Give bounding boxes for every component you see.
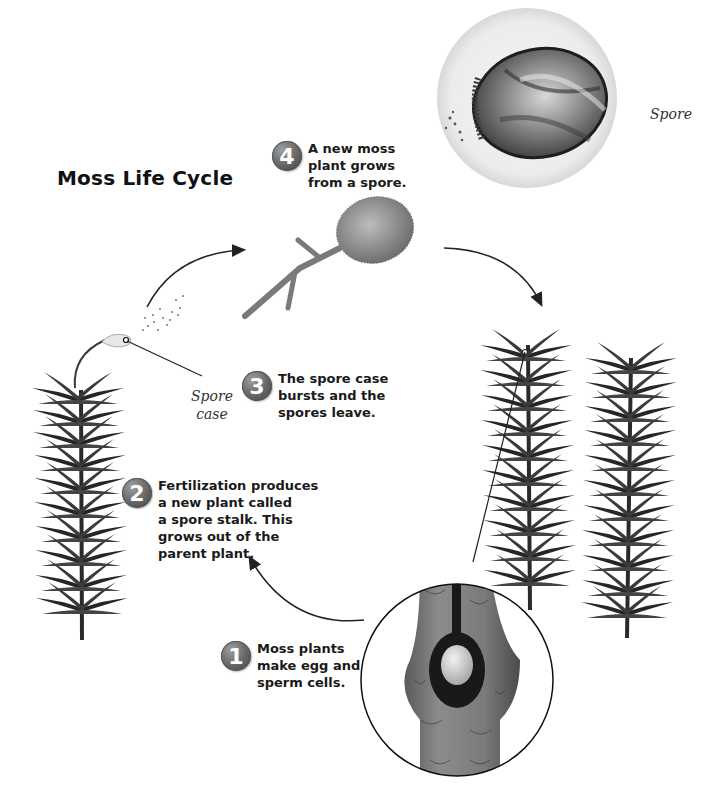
released-spores — [142, 295, 184, 331]
step-3: 3 The spore case bursts and the spores l… — [242, 370, 388, 421]
step-4-number-badge: 4 — [272, 141, 302, 171]
step-3-text: The spore case bursts and the spores lea… — [278, 370, 388, 421]
moss-plant-1 — [473, 329, 576, 610]
step-4: 4 A new moss plant grows from a spore. — [272, 140, 407, 191]
step-2: 2 Fertilization produces a new plant cal… — [122, 477, 318, 562]
step-1: 1 Moss plants make egg and sperm cells. — [221, 640, 360, 691]
moss-plant-2 — [581, 342, 677, 638]
step-1-text: Moss plants make egg and sperm cells. — [257, 640, 360, 691]
spore-illustration — [437, 8, 617, 188]
step-1-number-badge: 1 — [221, 641, 251, 671]
germinating-spore-illustration — [245, 188, 421, 316]
egg-cell-magnified-view — [361, 570, 553, 790]
arrow-1-to-2 — [250, 558, 364, 621]
arrow-3-to-4 — [147, 250, 243, 307]
cycle-arrows — [147, 248, 541, 621]
step-2-text: Fertilization produces a new plant calle… — [158, 477, 318, 562]
spore-case-label: Spore case — [191, 387, 233, 423]
spore-label: Spore — [650, 105, 692, 123]
step-4-text: A new moss plant grows from a spore. — [308, 140, 407, 191]
step-2-number-badge: 2 — [122, 478, 152, 508]
arrow-4-to-1 — [444, 248, 541, 304]
step-3-number-badge: 3 — [242, 371, 272, 401]
diagram-title: Moss Life Cycle — [57, 166, 233, 190]
